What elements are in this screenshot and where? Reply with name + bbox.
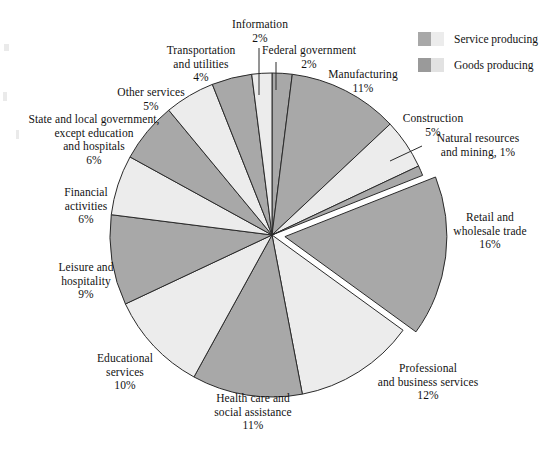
label-manufacturing: Manufacturing 11% xyxy=(311,68,415,95)
legend-label-service-producing: Service producing xyxy=(454,33,538,45)
label-educational-services: Educational services 10% xyxy=(74,352,176,393)
legend-swatch-light-half xyxy=(431,32,444,46)
legend-swatch-goods-producing xyxy=(418,58,444,72)
label-transportation-utilities: Transportation and utilities 4% xyxy=(146,44,256,85)
legend-swatch-light-half xyxy=(431,58,444,72)
label-information: Information 2% xyxy=(202,18,318,45)
legend-swatch-dark-half xyxy=(418,58,431,72)
label-health-care: Health care and social assistance 11% xyxy=(186,392,320,433)
pie-chart-figure: Information 2% Federal government 2% Tra… xyxy=(0,0,543,450)
label-retail-wholesale: Retail and wholesale trade 16% xyxy=(440,211,540,252)
label-construction: Construction 5% xyxy=(385,112,481,139)
label-other-services: Other services 5% xyxy=(96,86,206,113)
legend-swatch-dark-half xyxy=(418,32,431,46)
legend-item-goods-producing: Goods producing xyxy=(418,54,540,76)
legend-label-goods-producing: Goods producing xyxy=(454,59,534,71)
label-professional-business: Professional and business services 12% xyxy=(355,362,501,403)
label-leisure-hospitality: Leisure and hospitality 9% xyxy=(36,261,136,302)
label-financial-activities: Financial activities 6% xyxy=(40,186,132,227)
label-federal-government: Federal government 2% xyxy=(234,44,384,71)
legend-item-service-producing: Service producing xyxy=(418,28,540,50)
legend-swatch-service-producing xyxy=(418,32,444,46)
label-state-local-government: State and local government, except educa… xyxy=(14,113,174,167)
legend: Service producing Goods producing xyxy=(418,28,540,80)
